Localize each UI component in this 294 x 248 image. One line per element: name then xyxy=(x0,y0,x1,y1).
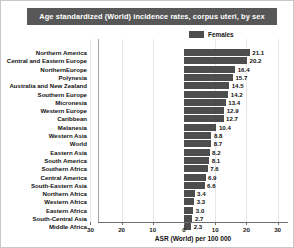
tick-mark xyxy=(153,222,154,225)
chart-title: Age standardized (World) incidence rates… xyxy=(39,12,264,21)
bar-females xyxy=(184,157,209,164)
bar-females xyxy=(184,74,233,81)
bar-females xyxy=(184,149,210,156)
tick-mark xyxy=(122,222,123,225)
bar-females xyxy=(184,82,229,89)
bar-females xyxy=(184,115,224,122)
tick-label: 30 xyxy=(87,226,94,233)
tick-label: 10 xyxy=(149,226,156,233)
bar-row: Middle Africa2.3 xyxy=(98,222,288,231)
tick-label: 10 xyxy=(212,226,219,233)
tick-label: 20 xyxy=(118,226,125,233)
legend-swatch-females xyxy=(189,31,204,38)
tick-mark xyxy=(278,222,279,225)
x-axis-line xyxy=(98,222,288,223)
bar-females xyxy=(184,215,192,222)
x-axis-title: ASR (World) per 100 000 xyxy=(98,235,288,242)
tick-mark xyxy=(215,222,216,225)
bar-females xyxy=(184,182,205,189)
chart-figure: Age standardized (World) incidence rates… xyxy=(0,0,294,248)
tick-mark xyxy=(184,222,185,225)
tick-label: 20 xyxy=(243,226,250,233)
tick-mark xyxy=(90,222,91,225)
bar-females xyxy=(184,124,216,131)
bar-females xyxy=(184,91,228,98)
bar-females xyxy=(184,66,235,73)
bar-females xyxy=(184,174,206,181)
bar-females xyxy=(184,190,195,197)
category-label: Middle Africa xyxy=(49,222,87,231)
legend-label-females: Females xyxy=(208,31,234,38)
chart-legend: Females xyxy=(189,31,234,38)
bar-females xyxy=(184,57,247,64)
bar-females xyxy=(184,198,194,205)
bar-females xyxy=(184,107,224,114)
bar-females xyxy=(184,140,211,147)
bar-females xyxy=(184,165,208,172)
bar-value-label: 2.3 xyxy=(194,222,202,231)
bar-females xyxy=(184,49,250,56)
gridline xyxy=(90,39,91,222)
tick-label: 30 xyxy=(274,226,281,233)
tick-label: 0 xyxy=(182,226,185,233)
bar-females xyxy=(184,207,193,214)
plot-area: Northern America21.1Central and Eastern … xyxy=(98,39,288,222)
bar-females xyxy=(184,99,226,106)
bar-females xyxy=(184,132,211,139)
tick-mark xyxy=(246,222,247,225)
chart-title-banner: Age standardized (World) incidence rates… xyxy=(27,8,277,25)
